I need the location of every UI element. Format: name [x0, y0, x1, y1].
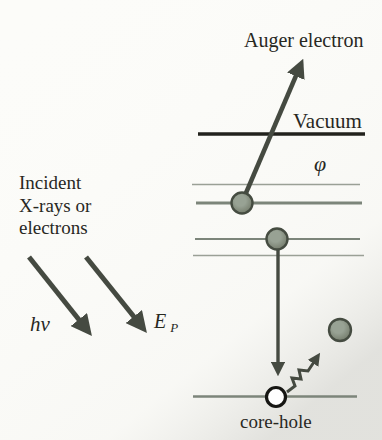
incident-label-line2: X-rays or: [19, 195, 92, 216]
primary-energy-symbol: E: [153, 310, 166, 332]
decaying-electron-circle: [267, 229, 288, 250]
work-function-label: φ: [314, 151, 326, 176]
incident-label-line1: Incident: [19, 172, 82, 193]
incident-label-line3: electrons: [19, 217, 88, 238]
auger-electron-label: Auger electron: [244, 29, 363, 52]
valence-electron-circle: [232, 193, 253, 214]
core-hole-circle: [267, 388, 286, 407]
auger-process-figure: Auger electron Vacuum φ Incident X-rays …: [0, 0, 382, 440]
ejected-electron-circle: [329, 319, 351, 341]
core-hole-label: core-hole: [240, 411, 312, 432]
photon-energy-label: hν: [30, 312, 51, 336]
primary-energy-subscript: P: [169, 320, 178, 335]
vacuum-label: Vacuum: [293, 109, 362, 133]
figure-canvas: Auger electron Vacuum φ Incident X-rays …: [0, 0, 382, 440]
